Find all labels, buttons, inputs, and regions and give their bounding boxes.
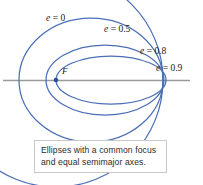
label-e0: e= 0 xyxy=(46,13,65,23)
label-e05-value: = 0.5 xyxy=(111,24,131,34)
label-e05-variable: e xyxy=(104,24,108,34)
label-e08: e= 0.8 xyxy=(140,46,167,56)
caption-text: Ellipses with a common focus and equal s… xyxy=(41,145,165,168)
label-e0-variable: e xyxy=(46,13,50,23)
label-e05: e= 0.5 xyxy=(104,24,131,34)
caption-line-1: Ellipses with a common focus xyxy=(41,145,156,155)
label-e09: e= 0.9 xyxy=(156,63,183,73)
label-e09-variable: e xyxy=(156,63,160,73)
label-e09-value: = 0.9 xyxy=(163,63,183,73)
focus-label: F xyxy=(61,66,68,76)
focus-point-marker xyxy=(54,78,59,83)
caption-box: Ellipses with a common focus and equal s… xyxy=(34,140,167,173)
label-e08-variable: e xyxy=(140,46,144,56)
label-e08-value: = 0.8 xyxy=(147,46,167,56)
caption-line-2: and equal semimajor axes. xyxy=(41,157,146,167)
label-e0-value: = 0 xyxy=(53,13,66,23)
